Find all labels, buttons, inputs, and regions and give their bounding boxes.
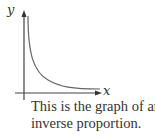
x-axis-label: x bbox=[103, 84, 110, 97]
caption-line-2: inverse proportion. bbox=[31, 115, 155, 132]
y-axis-arrow-icon bbox=[22, 10, 27, 17]
x-axis-arrow-icon bbox=[95, 91, 102, 96]
inverse-curve bbox=[28, 16, 100, 89]
caption-line-1: This is the graph of an bbox=[31, 98, 155, 115]
y-axis-label: y bbox=[7, 3, 14, 16]
figure-caption: This is the graph of an inverse proporti… bbox=[31, 98, 155, 132]
